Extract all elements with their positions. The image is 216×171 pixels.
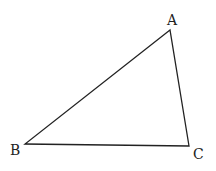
vertex-label-b: B	[10, 142, 20, 158]
triangle-diagram: A B C	[0, 0, 216, 171]
vertex-label-a: A	[166, 12, 178, 28]
triangle-abc	[25, 30, 189, 146]
vertex-label-c: C	[193, 146, 204, 162]
